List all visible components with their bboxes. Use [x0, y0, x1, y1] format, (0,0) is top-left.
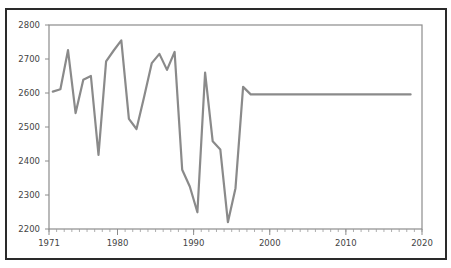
chart-series: [53, 40, 411, 222]
y-tick-label: 2600: [18, 88, 40, 98]
x-tick-label: 2010: [335, 238, 357, 248]
y-tick-label: 2800: [18, 20, 40, 30]
y-tick-label: 2200: [18, 224, 40, 234]
series-line: [53, 40, 411, 222]
y-tick-label: 2300: [18, 190, 40, 200]
x-tick-label: 2000: [259, 238, 281, 248]
x-tick-label: 1971: [38, 238, 60, 248]
x-tick-label: 1980: [107, 238, 129, 248]
line-chart: 2200230024002500260027002800197119801990…: [0, 0, 451, 268]
plot-area-border: [49, 25, 422, 229]
chart-axes: 2200230024002500260027002800197119801990…: [18, 20, 432, 248]
x-tick-label: 1990: [183, 238, 205, 248]
y-tick-label: 2700: [18, 54, 40, 64]
x-tick-label: 2020: [411, 238, 433, 248]
y-tick-label: 2400: [18, 156, 40, 166]
y-tick-label: 2500: [18, 122, 40, 132]
